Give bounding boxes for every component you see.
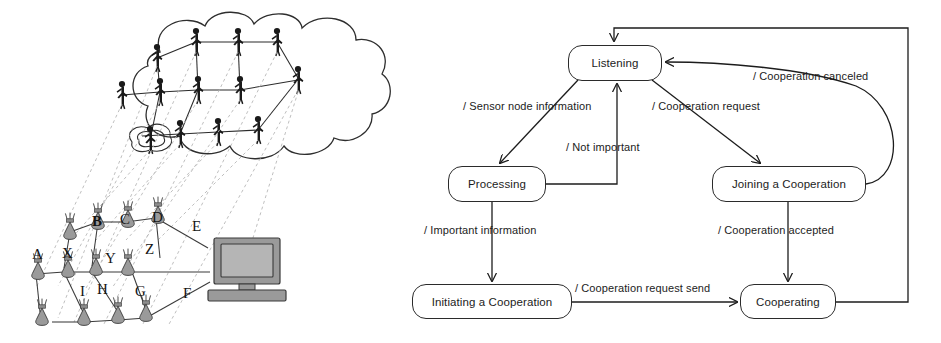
state-processing[interactable]: Processing [448, 166, 546, 202]
transition-listening-to-processing [500, 80, 578, 163]
cooperation-state-diagram: Listening Processing Joining a Cooperati… [400, 0, 941, 343]
sensor-node-label-g: G [135, 283, 146, 300]
state-cooperating-label: Cooperating [756, 296, 820, 308]
sensor-node-i [36, 299, 49, 326]
sensor-node-label-x: X [62, 245, 73, 262]
state-processing-label: Processing [468, 178, 526, 190]
state-initiating-a-cooperation-label: Initiating a Cooperation [432, 296, 553, 308]
state-joining-a-cooperation-label: Joining a Cooperation [732, 178, 846, 190]
sensor-node-label-b: B [92, 213, 102, 230]
sensor-network-overlay-illustration: B C D E A X Y Z I H G F [0, 0, 470, 343]
sensor-node-g [112, 297, 125, 324]
state-initiating-a-cooperation[interactable]: Initiating a Cooperation [412, 284, 572, 319]
state-cooperating[interactable]: Cooperating [740, 284, 836, 319]
transition-label-cooperation-request-send: / Cooperation request send [575, 282, 710, 294]
sensor-node-label-d: D [152, 209, 163, 226]
state-listening[interactable]: Listening [568, 45, 662, 81]
sensor-node-label-e: E [192, 218, 201, 235]
transition-label-cooperation-canceled: / Cooperation canceled [753, 70, 868, 82]
sensor-node-label-i: I [80, 283, 85, 300]
sensor-node-z [122, 249, 135, 276]
figure-root: B C D E A X Y Z I H G F [0, 0, 941, 343]
sensor-node-label-f: F [183, 285, 191, 302]
sensor-node-label-y: Y [105, 250, 116, 267]
transition-label-cooperation-accepted: / Cooperation accepted [718, 224, 834, 236]
cloud-outline [133, 12, 390, 159]
transition-label-sensor-node-information: / Sensor node information [463, 100, 591, 112]
transition-label-not-important: / Not important [566, 141, 640, 153]
state-listening-label: Listening [592, 57, 639, 69]
state-joining-a-cooperation[interactable]: Joining a Cooperation [712, 166, 866, 202]
sensor-node-b [64, 213, 77, 240]
sensor-node-h [78, 299, 91, 326]
desktop-computer [208, 238, 286, 301]
sensor-node-label-a: A [32, 246, 43, 263]
sensor-node-y [90, 249, 103, 276]
sensor-node-label-h: H [97, 281, 108, 298]
transition-label-cooperation-request: / Cooperation request [652, 100, 760, 112]
sensor-node-label-c: C [120, 211, 130, 228]
transition-listening-to-joining [652, 80, 760, 163]
transition-processing-to-listening [546, 84, 617, 184]
sensor-network-scene [0, 0, 470, 343]
sensor-node-label-z: Z [145, 241, 154, 258]
